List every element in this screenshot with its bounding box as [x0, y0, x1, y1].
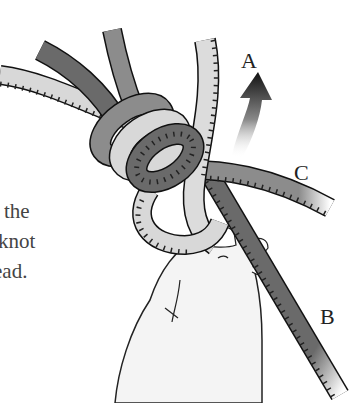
caption-line-1: the	[4, 196, 130, 226]
caption-line-2: knot	[0, 226, 130, 256]
up-arrow-icon	[232, 72, 272, 158]
caption-text: the knot read.	[0, 196, 130, 286]
caption-line-3: read.	[0, 256, 130, 286]
label-b: B	[320, 304, 335, 330]
knot-illustration: the knot read. A C B	[0, 0, 360, 403]
label-a: A	[241, 48, 257, 74]
label-c: C	[294, 160, 309, 186]
